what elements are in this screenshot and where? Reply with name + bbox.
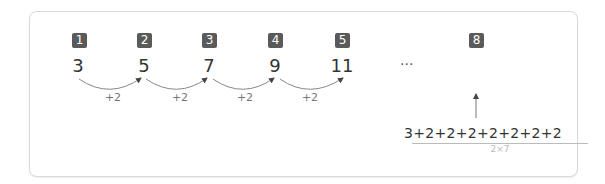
step-arrow-2 — [146, 78, 207, 89]
step-arrow-4 — [280, 78, 343, 89]
arrows-layer — [0, 0, 605, 184]
underbrace-label: 2×7 — [470, 144, 530, 154]
sum-expression: 3+2+2+2+2+2+2+2 — [404, 125, 562, 141]
step-arrow-3 — [213, 78, 274, 89]
step-arrow-1 — [79, 78, 141, 89]
